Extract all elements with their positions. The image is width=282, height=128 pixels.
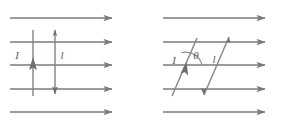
- left-panel-current-label-I: I: [14, 49, 20, 61]
- figure-root: I l θ I l: [0, 0, 282, 128]
- right-panel-length-label-l: l: [212, 53, 215, 65]
- inclined-conductor-panel: θ I l: [163, 18, 265, 112]
- physics-diagram: I l θ I l: [0, 0, 282, 128]
- current-wire-down-inclined: [201, 37, 231, 95]
- angle-theta-arc: [182, 52, 203, 65]
- current-wire-up-inclined: [172, 38, 197, 96]
- current-wire-down-inclined-shaft: [204, 37, 229, 95]
- right-panel-current-label-I: I: [171, 54, 177, 66]
- uniform-magnetic-field-lines-left: [10, 18, 112, 112]
- perpendicular-conductor-panel: I l: [10, 18, 112, 112]
- current-wire-up: [29, 30, 37, 96]
- current-wire-down: [52, 30, 58, 94]
- uniform-magnetic-field-lines-right: [163, 18, 265, 112]
- left-panel-length-label-l: l: [60, 49, 63, 61]
- angle-theta-label: θ: [193, 49, 199, 61]
